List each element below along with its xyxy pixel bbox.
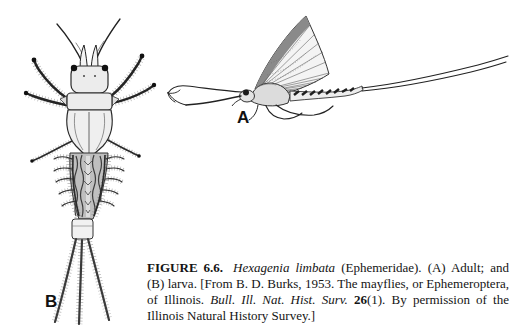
adult-forewing	[255, 16, 329, 92]
adult-tail-filaments	[362, 56, 508, 91]
larva-illustration	[18, 13, 168, 327]
larva-head	[71, 65, 108, 93]
larva-abdomen-with-gills	[54, 153, 124, 219]
figure-page: A B FIGURE 6.6.Hexagenia limbata (Epheme…	[0, 0, 512, 327]
caption-species-name: Hexagenia limbata	[233, 260, 335, 275]
caption-volume-number: 26	[354, 292, 367, 307]
panel-label-adult: A	[237, 109, 249, 126]
larva-pronotum	[60, 93, 119, 110]
adult-mayfly-illustration	[163, 0, 512, 140]
adult-legs	[249, 105, 333, 120]
larva-tail-filaments	[55, 239, 109, 324]
panel-label-larva: B	[45, 293, 57, 310]
larva-terminal-segment	[72, 219, 93, 239]
caption-journal-name: Bull. Ill. Nat. Hist. Surv.	[210, 292, 354, 307]
caption-figure-label: FIGURE 6.6.	[147, 260, 223, 275]
adult-forelegs	[168, 86, 242, 105]
figure-caption: FIGURE 6.6.Hexagenia limbata (Ephemerida…	[147, 260, 509, 324]
larva-antennae	[57, 19, 120, 66]
